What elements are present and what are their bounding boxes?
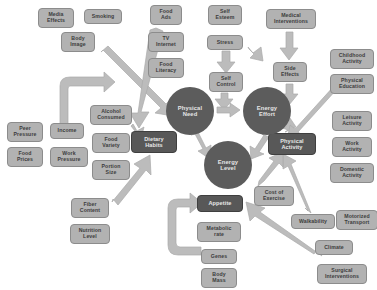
influence-diagram-canvas: .ar{fill:#bcbcbc;stroke:#ababab;stroke-w… <box>0 0 377 290</box>
node-food-literacy[interactable]: FoodLiteracy <box>148 58 184 78</box>
node-motorized-transport[interactable]: MotorizedTransport <box>336 210 377 230</box>
node-appetite[interactable]: Appetite <box>197 195 243 212</box>
node-walkability[interactable]: Walkability <box>291 214 335 229</box>
node-metabolic-rate[interactable]: Metabolicrate <box>197 222 241 242</box>
node-label: Cost ofExercise <box>255 190 293 201</box>
node-label: PortionSize <box>93 164 129 175</box>
node-fiber-content[interactable]: FiberContent <box>71 198 109 218</box>
node-climate[interactable]: Climate <box>315 240 353 255</box>
edge-stress-to-medical-interventions <box>248 47 263 61</box>
edge-cost-of-exercise-to-physical-activity <box>258 152 283 186</box>
node-peer-pressure[interactable]: PeerPressure <box>7 122 43 142</box>
node-label: EnergyEffort <box>243 105 291 118</box>
edge-stress-to-self-control <box>217 51 235 73</box>
node-label: FoodLiteracy <box>149 62 183 73</box>
node-label: MotorizedTransport <box>337 214 377 225</box>
node-energy-effort[interactable]: EnergyEffort <box>243 87 291 135</box>
node-label: SelfControl <box>210 76 242 87</box>
edge-self-control-to-physical-need <box>215 93 233 110</box>
node-label: BodyMass <box>202 272 236 283</box>
node-label: Genes <box>202 254 236 260</box>
node-stress[interactable]: Stress <box>207 35 243 50</box>
node-label: FoodVariety <box>93 137 129 148</box>
node-surgical-interventions[interactable]: SurgicalInterventions <box>317 264 367 284</box>
edge-medical-to-side-effects <box>280 32 298 60</box>
node-tv-internet[interactable]: TVInternet <box>148 32 184 52</box>
node-food-prices[interactable]: FoodPrices <box>7 147 43 167</box>
node-label: BodyImage <box>62 36 94 47</box>
node-media-effects[interactable]: MediaEffects <box>38 8 74 28</box>
node-label: Walkability <box>292 219 334 225</box>
node-label: Smoking <box>85 14 121 20</box>
node-physical-education[interactable]: PhysicalEducation <box>330 74 374 94</box>
node-income[interactable]: Income <box>50 123 84 139</box>
node-cost-of-exercise[interactable]: Cost ofExercise <box>254 186 294 206</box>
node-label: PhysicalEducation <box>331 78 373 89</box>
node-label: MediaEffects <box>39 12 73 23</box>
node-label: DietaryHabits <box>132 136 176 148</box>
node-label: WorkActivity <box>333 141 371 152</box>
node-label: Climate <box>316 245 352 251</box>
node-label: Stress <box>208 40 242 46</box>
node-label: SideEffects <box>274 66 306 77</box>
node-label: TVInternet <box>149 36 183 47</box>
node-medical-interventions[interactable]: MedicalInterventions <box>266 9 316 29</box>
node-label: Income <box>51 128 83 134</box>
node-energy-level[interactable]: EnergyLevel <box>204 141 252 189</box>
node-label: AlcoholConsumed <box>91 109 131 120</box>
node-side-effects[interactable]: SideEffects <box>273 62 307 82</box>
edge-climate-to-cost-of-exercise <box>246 202 322 256</box>
node-label: FoodPrices <box>8 151 42 162</box>
node-food-variety[interactable]: FoodVariety <box>92 133 130 153</box>
node-body-image[interactable]: BodyImage <box>61 32 95 52</box>
node-alcohol-consumed[interactable]: AlcoholConsumed <box>90 105 132 125</box>
node-food-ads[interactable]: FoodAds <box>150 5 182 25</box>
node-self-esteem[interactable]: SelfEsteem <box>208 5 242 25</box>
node-label: EnergyLevel <box>204 159 252 172</box>
node-label: PeerPressure <box>8 126 42 137</box>
node-label: FiberContent <box>72 202 108 213</box>
node-label: FoodAds <box>151 9 181 20</box>
node-physical-need[interactable]: PhysicalNeed <box>166 87 214 135</box>
node-label: LeisureActivity <box>333 115 371 126</box>
node-physical-activity[interactable]: PhysicalActivity <box>268 133 316 155</box>
node-dietary-habits[interactable]: DietaryHabits <box>131 131 177 153</box>
edge-physical-need-to-energy-effort <box>217 103 240 117</box>
node-label: SelfEsteem <box>209 9 241 20</box>
node-nutrition-level[interactable]: NutritionLevel <box>70 224 110 244</box>
node-label: ChildhoodActivity <box>331 53 373 64</box>
node-childhood-activity[interactable]: ChildhoodActivity <box>330 49 374 69</box>
node-label: PhysicalNeed <box>166 105 214 118</box>
edge-energy-effort-to-energy-level <box>250 134 269 159</box>
node-label: Appetite <box>198 200 242 206</box>
edge-childhood-to-physical-activity <box>287 84 337 140</box>
node-body-mass[interactable]: BodyMass <box>201 268 237 288</box>
node-label: SurgicalInterventions <box>318 268 366 279</box>
node-self-control[interactable]: SelfControl <box>209 72 243 92</box>
node-label: Metabolicrate <box>198 226 240 237</box>
node-smoking[interactable]: Smoking <box>84 9 122 24</box>
node-label: DomesticActivity <box>331 167 373 178</box>
node-portion-size[interactable]: PortionSize <box>92 160 130 180</box>
node-work-activity[interactable]: WorkActivity <box>332 137 372 157</box>
node-leisure-activity[interactable]: LeisureActivity <box>332 111 372 131</box>
node-label: NutritionLevel <box>71 228 109 239</box>
node-label: PhysicalActivity <box>269 138 315 150</box>
node-label: WorkPressure <box>51 151 87 162</box>
node-domestic-activity[interactable]: DomesticActivity <box>330 163 374 183</box>
node-genes[interactable]: Genes <box>201 249 237 264</box>
node-work-pressure[interactable]: WorkPressure <box>50 147 88 167</box>
node-label: MedicalInterventions <box>267 13 315 24</box>
